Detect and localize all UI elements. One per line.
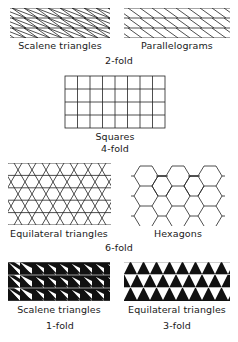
- fold-label-3-fold: 3-fold: [147, 320, 207, 331]
- tiling-label-equilateral-triangles: Equilateral triangles: [4, 228, 114, 239]
- tiling-label-filled-scalene-triangles: Scalene triangles: [6, 304, 112, 315]
- fold-label-6-fold: 6-fold: [89, 242, 149, 253]
- fold-label-2-fold: 2-fold: [89, 55, 149, 66]
- scalene-triangles-tiling: [0, 8, 134, 38]
- fold-label-4-fold: 4-fold: [65, 143, 165, 154]
- squares-tiling: [65, 76, 165, 128]
- tiling-label-scalene-triangles: Scalene triangles: [8, 40, 112, 51]
- parallelograms-tiling: [116, 8, 238, 38]
- tiling-figure: [0, 0, 238, 342]
- filled-equilateral-triangles-tiling: [118, 262, 234, 301]
- tiling-label-hexagons: Hexagons: [130, 228, 226, 239]
- equilateral-triangles-tiling: [0, 163, 148, 225]
- tiling-label-squares: Squares: [65, 131, 165, 142]
- tiling-label-parallelograms: Parallelograms: [124, 40, 230, 51]
- tiling-label-filled-equilateral-triangles: Equilateral triangles: [120, 304, 234, 315]
- filled-scalene-triangles-tiling: [0, 262, 130, 301]
- fold-label-1-fold: 1-fold: [30, 320, 90, 331]
- hexagons-tiling: [131, 166, 225, 226]
